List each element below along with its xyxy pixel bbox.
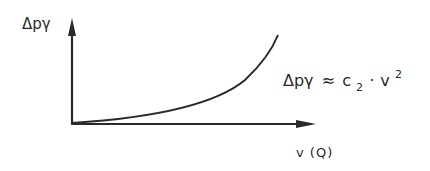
- x-axis-arrow-icon: [296, 120, 316, 128]
- y-axis-arrow-icon: [68, 18, 76, 36]
- formula-relation: ≈: [322, 71, 335, 90]
- formula-lhs: Δpγ: [283, 71, 314, 90]
- x-axis: [71, 120, 316, 128]
- formula-dot: ·: [369, 71, 374, 90]
- y-axis: [68, 18, 76, 124]
- diagram-canvas: Δpγ Δpγ ≈ c 2 · v 2 v (Q): [0, 0, 430, 171]
- formula-coeff: c: [342, 71, 351, 90]
- formula-var: v: [380, 71, 389, 90]
- y-axis-label: Δpγ: [22, 15, 51, 33]
- formula-exponent: 2: [395, 68, 402, 81]
- x-axis-label: v (Q): [296, 145, 333, 160]
- formula-coeff-subscript: 2: [356, 81, 363, 94]
- quadratic-curve: [72, 35, 278, 123]
- curve-formula: Δpγ ≈ c 2 · v 2: [283, 68, 402, 95]
